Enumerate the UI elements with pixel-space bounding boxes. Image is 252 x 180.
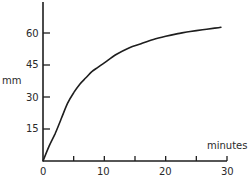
- x-tick-label-30: 30: [221, 166, 234, 177]
- y-tick-label-60: 60: [26, 28, 39, 39]
- x-axis-label: minutes: [207, 140, 247, 151]
- y-tick-label-15: 15: [26, 123, 39, 134]
- x-tick-label-0: 0: [40, 166, 46, 177]
- axes: [43, 2, 227, 161]
- x-tick-label-10: 10: [97, 166, 110, 177]
- y-tick-label-30: 30: [26, 92, 39, 103]
- y-tick-label-45: 45: [26, 59, 39, 70]
- x-tick-label-20: 20: [159, 166, 172, 177]
- y-ticks: [43, 33, 50, 129]
- data-curve: [43, 27, 221, 161]
- chart: 60 45 30 15 0 10 20 30 mm minutes: [0, 0, 252, 180]
- y-axis-label: mm: [2, 75, 21, 86]
